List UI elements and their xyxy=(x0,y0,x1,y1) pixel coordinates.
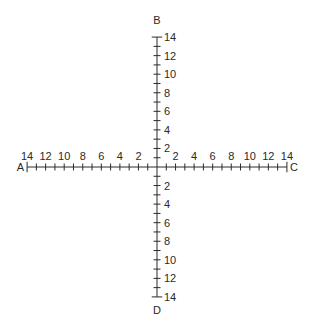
tick-label-down-12: 12 xyxy=(164,272,176,284)
tick-label-left-8: 8 xyxy=(80,150,86,162)
tick-label-left-2: 2 xyxy=(135,150,141,162)
axis-end-label-d: D xyxy=(153,304,161,316)
tick-label-down-14: 14 xyxy=(164,291,176,303)
tick-label-down-10: 10 xyxy=(164,254,176,266)
tick-label-up-14: 14 xyxy=(164,31,176,43)
tick-label-down-2: 2 xyxy=(164,180,170,192)
tick-label-right-12: 12 xyxy=(262,150,274,162)
tick-label-up-8: 8 xyxy=(164,87,170,99)
tick-label-right-8: 8 xyxy=(228,150,234,162)
tick-label-left-10: 10 xyxy=(58,150,70,162)
tick-label-right-4: 4 xyxy=(191,150,197,162)
tick-label-left-4: 4 xyxy=(117,150,123,162)
tick-label-up-6: 6 xyxy=(164,105,170,117)
tick-label-left-12: 12 xyxy=(40,150,52,162)
tick-label-down-4: 4 xyxy=(164,198,170,210)
axis-end-label-a: A xyxy=(17,161,25,173)
tick-label-down-6: 6 xyxy=(164,217,170,229)
quadrant-axes-diagram: 1412108642246810121424681012142468101214… xyxy=(0,0,313,331)
tick-label-up-12: 12 xyxy=(164,50,176,62)
tick-label-right-2: 2 xyxy=(172,150,178,162)
tick-label-up-2: 2 xyxy=(164,142,170,154)
tick-label-right-6: 6 xyxy=(210,150,216,162)
tick-label-up-10: 10 xyxy=(164,68,176,80)
tick-label-down-8: 8 xyxy=(164,235,170,247)
axis-end-label-b: B xyxy=(153,14,160,26)
tick-label-right-10: 10 xyxy=(244,150,256,162)
tick-label-up-4: 4 xyxy=(164,124,170,136)
axis-end-label-c: C xyxy=(290,161,298,173)
tick-label-left-6: 6 xyxy=(98,150,104,162)
